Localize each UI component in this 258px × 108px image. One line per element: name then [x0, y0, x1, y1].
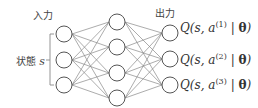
node-layer1-2: [109, 65, 125, 81]
state-text: 状態: [16, 56, 39, 67]
node-layer1-1: [109, 39, 125, 55]
edge-l0-2-0: [72, 22, 109, 85]
node-layer2-2: [162, 77, 178, 93]
state-label: 状態 s: [16, 53, 45, 68]
output-q3: Q(s, a(3) | θ): [180, 77, 251, 92]
state-var: s: [39, 55, 45, 68]
input-label: 入力: [33, 7, 53, 22]
edge-l0-2-3: [72, 85, 109, 98]
node-layer1-3: [109, 90, 125, 106]
output-label: 出力: [155, 5, 175, 20]
node-layer0-1: [56, 52, 72, 68]
node-layer2-1: [162, 51, 178, 67]
edge-l1-3-0: [125, 33, 162, 98]
node-layer2-0: [162, 25, 178, 41]
output-q1: Q(s, a(1) | θ): [180, 20, 251, 35]
node-layer1-0: [109, 14, 125, 30]
state-bracket: [46, 34, 54, 85]
node-layer0-2: [56, 77, 72, 93]
edge-l1-3-2: [125, 85, 162, 98]
output-q2: Q(s, a(2) | θ): [180, 52, 251, 67]
node-layer0-0: [56, 26, 72, 42]
edge-l1-1-0: [125, 33, 162, 47]
